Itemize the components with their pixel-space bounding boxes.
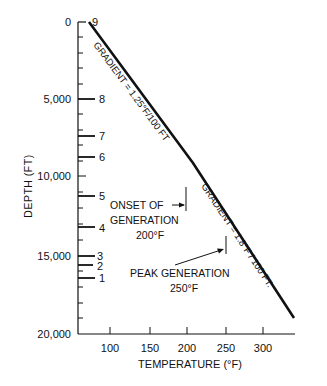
svg-text:300: 300 xyxy=(254,342,272,354)
gradient-label-upper: GRADIENT = 1.25°F/100 FT xyxy=(91,40,172,144)
marker-6: 6 xyxy=(99,151,105,163)
marker-4: 4 xyxy=(99,222,105,234)
svg-text:PEAK GENERATION: PEAK GENERATION xyxy=(130,267,230,279)
x-tick-labels: 100 150 200 250 300 xyxy=(101,342,272,354)
svg-text:5,000: 5,000 xyxy=(43,93,71,105)
svg-text:ONSET OF: ONSET OF xyxy=(110,199,163,211)
x-axis-label: TEMPERATURE (°F) xyxy=(138,358,242,370)
svg-text:20,000: 20,000 xyxy=(37,328,71,340)
svg-text:250: 250 xyxy=(217,342,235,354)
svg-text:10,000: 10,000 xyxy=(37,170,71,182)
depth-temperature-chart: 9 8 7 6 5 4 3 2 1 0 5,000 10,000 15,000 … xyxy=(0,0,327,386)
peak-annotation: PEAK GENERATION 250°F xyxy=(130,267,230,294)
y-minor-ticks xyxy=(78,37,86,318)
svg-text:200°F: 200°F xyxy=(136,229,164,241)
depth-marker-ticks xyxy=(78,99,95,278)
svg-text:0: 0 xyxy=(65,16,71,28)
marker-1: 1 xyxy=(99,272,105,284)
x-ticks xyxy=(110,327,263,334)
svg-text:15,000: 15,000 xyxy=(37,250,71,262)
y-tick-labels: 0 5,000 10,000 15,000 20,000 xyxy=(37,16,71,340)
marker-8: 8 xyxy=(99,93,105,105)
marker-5: 5 xyxy=(99,190,105,202)
svg-text:GENERATION: GENERATION xyxy=(110,214,179,226)
svg-text:100: 100 xyxy=(101,342,119,354)
marker-2: 2 xyxy=(97,260,103,272)
marker-7: 7 xyxy=(99,130,105,142)
svg-text:200: 200 xyxy=(178,342,196,354)
svg-text:250°F: 250°F xyxy=(170,282,198,294)
y-axis-label: DEPTH (FT) xyxy=(22,154,34,217)
onset-annotation: ONSET OF GENERATION 200°F xyxy=(110,199,179,241)
svg-text:150: 150 xyxy=(141,342,159,354)
